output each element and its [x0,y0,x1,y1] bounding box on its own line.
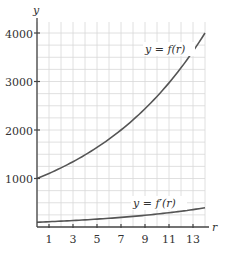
f-curve-label: y = f(r) [144,43,185,56]
x-axis-label: r [212,221,218,234]
x-tick-5: 5 [94,233,101,246]
x-tick-9: 9 [142,233,149,246]
y-tick-2000: 2000 [5,125,33,138]
y-tick-4000: 4000 [5,28,33,41]
x-tick-7: 7 [118,233,125,246]
x-tick-11: 11 [162,233,176,246]
y-tick-1000: 1000 [5,173,33,186]
chart: y r 4000 3000 2000 1000 1 3 5 7 9 11 13 … [0,0,225,253]
y-tick-3000: 3000 [5,76,33,89]
fprime-curve-label: y = f′(r) [132,197,176,210]
x-tick-3: 3 [70,233,77,246]
x-tick-13: 13 [186,233,200,246]
x-tick-1: 1 [46,233,53,246]
y-axis-label: y [32,4,40,17]
